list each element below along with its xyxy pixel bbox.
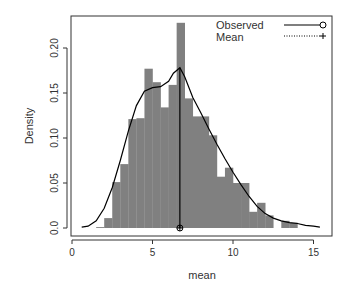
legend: Observed Mean: [216, 19, 326, 43]
histogram-chart: 051015 0.00.050.100.150.20 mean Density …: [0, 0, 351, 290]
y-tick-label: 0.15: [49, 83, 60, 103]
x-tick-label: 5: [150, 247, 156, 258]
legend-label-mean: Mean: [216, 31, 244, 43]
y-tick-label: 0.10: [49, 128, 60, 148]
legend-circle-icon: [320, 22, 326, 28]
histogram-bar: [161, 107, 169, 228]
histogram-bar: [169, 85, 177, 228]
histogram-bar: [257, 203, 265, 228]
legend-plus-icon: [320, 33, 326, 39]
histogram-bar: [136, 118, 144, 228]
x-tick-label: 15: [308, 247, 320, 258]
y-tick-label: 0.0: [49, 221, 60, 235]
y-axis: 0.00.050.100.150.20: [49, 38, 67, 235]
histogram-bar: [177, 23, 185, 228]
y-tick-label: 0.20: [49, 38, 60, 58]
histogram-bar: [128, 119, 136, 228]
y-tick-label: 0.05: [49, 173, 60, 193]
histogram-bar: [96, 227, 104, 228]
histogram-bar: [185, 98, 193, 228]
x-axis-label: mean: [188, 269, 216, 281]
legend-label-observed: Observed: [216, 19, 264, 31]
histogram-bar: [209, 135, 217, 228]
x-axis: 051015: [69, 240, 319, 258]
x-tick-label: 0: [69, 247, 75, 258]
histogram-bar: [233, 183, 241, 228]
histogram-bar: [217, 177, 225, 228]
histogram-bar: [104, 218, 112, 228]
histogram-bar: [225, 168, 233, 228]
histogram-bar: [241, 183, 249, 228]
histogram-bar: [249, 212, 257, 228]
histogram-bar: [144, 69, 152, 228]
x-tick-label: 10: [227, 247, 239, 258]
histogram-bar: [120, 164, 128, 228]
histogram-bar: [193, 116, 201, 228]
mean-marker-icon: [177, 225, 183, 231]
y-axis-label: Density: [23, 107, 35, 144]
histogram-bar: [153, 82, 161, 228]
histogram-bar: [201, 116, 209, 228]
histogram-bars: [96, 23, 298, 228]
histogram-bar: [112, 182, 120, 228]
